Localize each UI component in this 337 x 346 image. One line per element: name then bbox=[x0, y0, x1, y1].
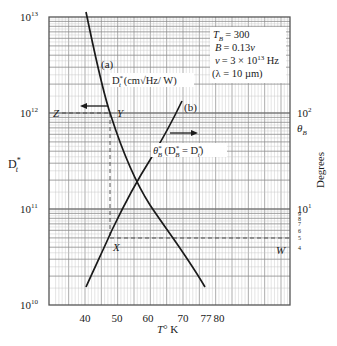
point-label-w: W bbox=[276, 244, 286, 256]
x-axis-tick-labels: 405060707780 bbox=[80, 312, 226, 324]
left-tick-13: 1013 bbox=[20, 10, 39, 23]
x-axis-title: T° K bbox=[157, 323, 178, 335]
chart-svg: 1013 1012 1011 1010 D*t 102 θB Degrees 1… bbox=[0, 0, 337, 346]
right-minor-tick-label: 5 bbox=[298, 235, 301, 241]
right-tick-2: 102 bbox=[297, 106, 312, 119]
x-tick-label: 40 bbox=[80, 312, 92, 324]
left-tick-12: 1012 bbox=[20, 106, 39, 119]
point-label-x: X bbox=[112, 241, 121, 253]
right-axis-title: Degrees bbox=[314, 152, 326, 188]
point-label-z: Z bbox=[53, 107, 60, 119]
right-axis-labels: 102 θB Degrees 101 987654 bbox=[297, 106, 326, 251]
arrow-left-to-dt-axis bbox=[80, 103, 108, 109]
left-tick-11: 1011 bbox=[20, 202, 38, 215]
left-axis-labels: 1013 1012 1011 1010 D*t bbox=[8, 10, 39, 311]
dashed-reference-lines bbox=[62, 113, 290, 238]
left-axis-title: D*t bbox=[8, 156, 21, 174]
right-minor-tick-labels: 987654 bbox=[298, 211, 301, 251]
x-tick-label: 70 bbox=[178, 312, 190, 324]
param-b: B= 0.13ν bbox=[215, 42, 255, 53]
x-tick-label: 77 bbox=[201, 312, 213, 324]
param-lambda: (λ = 10 µm) bbox=[212, 68, 263, 80]
x-tick-label: 60 bbox=[143, 312, 155, 324]
left-tick-10: 1010 bbox=[20, 298, 39, 311]
right-minor-tick-label: 6 bbox=[298, 228, 301, 234]
x-tick-label: 80 bbox=[214, 312, 226, 324]
curve-b-label: (b) bbox=[184, 101, 197, 114]
curve-a-label: (a) bbox=[101, 58, 114, 71]
right-minor-tick-label: 4 bbox=[298, 245, 301, 251]
right-axis-symbol: θB bbox=[297, 122, 307, 137]
param-nu: ν= 3 × 1013 Hz bbox=[215, 54, 279, 66]
right-minor-tick-label: 7 bbox=[298, 221, 301, 227]
x-tick-label: 50 bbox=[112, 312, 124, 324]
parameter-legend: TB= 300 B= 0.13ν ν= 3 × 1013 Hz (λ = 10 … bbox=[210, 27, 286, 83]
